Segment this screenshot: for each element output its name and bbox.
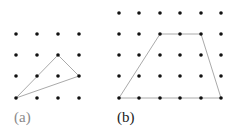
grid-dot: [199, 74, 203, 78]
grid-dot: [117, 11, 121, 15]
dot-grid-diagram: [0, 0, 238, 126]
grid-dot: [56, 53, 60, 57]
grid-dot: [137, 74, 141, 78]
grid-dot: [158, 74, 162, 78]
grid-dot: [117, 32, 121, 36]
grid-dot: [178, 32, 182, 36]
grid-dot: [199, 53, 203, 57]
grid-dot: [178, 74, 182, 78]
panel-a-geoboard: [14, 32, 81, 100]
grid-dot: [158, 11, 162, 15]
grid-dot: [35, 32, 39, 36]
grid-dot: [137, 96, 141, 100]
grid-dot: [14, 32, 18, 36]
grid-dot: [219, 53, 223, 57]
grid-dot: [137, 11, 141, 15]
grid-dot: [137, 32, 141, 36]
trapezoid-outline: [119, 34, 221, 98]
grid-dot: [219, 32, 223, 36]
grid-dot: [56, 32, 60, 36]
panel-a-label: (a): [14, 110, 31, 125]
grid-dot: [117, 53, 121, 57]
grid-dot: [56, 74, 60, 78]
grid-dot: [35, 96, 39, 100]
grid-dot: [77, 74, 81, 78]
grid-dot: [199, 11, 203, 15]
grid-dot: [56, 96, 60, 100]
grid-dot: [178, 11, 182, 15]
grid-dot: [158, 96, 162, 100]
grid-dot: [178, 96, 182, 100]
triangle-outline: [16, 55, 79, 98]
grid-dot: [219, 96, 223, 100]
grid-dot: [178, 53, 182, 57]
grid-dot: [137, 53, 141, 57]
grid-dot: [158, 53, 162, 57]
grid-dot: [219, 11, 223, 15]
grid-dot: [35, 53, 39, 57]
grid-dot: [117, 74, 121, 78]
grid-dot: [219, 74, 223, 78]
grid-dot: [35, 74, 39, 78]
grid-dot: [14, 74, 18, 78]
grid-dot: [77, 32, 81, 36]
grid-dot: [117, 96, 121, 100]
grid-dot: [199, 32, 203, 36]
grid-dot: [77, 96, 81, 100]
grid-dot: [14, 53, 18, 57]
grid-dot: [14, 96, 18, 100]
grid-dot: [77, 53, 81, 57]
panel-b-geoboard: [117, 11, 223, 100]
grid-dot: [158, 32, 162, 36]
grid-dot: [199, 96, 203, 100]
panel-b-label: (b): [117, 110, 135, 125]
